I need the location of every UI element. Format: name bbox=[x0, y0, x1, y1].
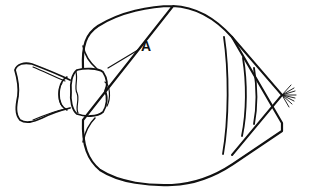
body-flap-upper bbox=[83, 46, 97, 69]
collar bbox=[59, 77, 67, 110]
label-a: A bbox=[141, 39, 151, 53]
insect-diagram bbox=[0, 0, 312, 190]
segment-band-2 bbox=[242, 58, 246, 136]
segment-band-1 bbox=[223, 37, 228, 154]
body-outline bbox=[83, 6, 282, 185]
head-lobe bbox=[15, 63, 70, 122]
label-a-leader bbox=[108, 50, 138, 68]
segment-band-3 bbox=[254, 68, 256, 124]
terminal-bristles bbox=[282, 85, 296, 107]
neck-capsule-inner bbox=[76, 72, 78, 113]
